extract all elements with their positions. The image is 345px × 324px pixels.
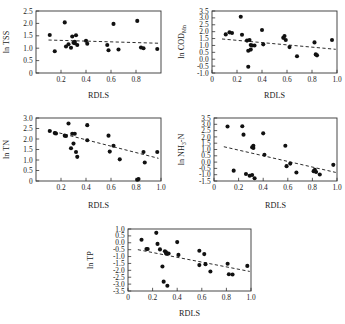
data-point: [330, 38, 334, 42]
data-point: [146, 247, 150, 251]
data-point: [66, 121, 70, 125]
trendline-tss: [49, 40, 159, 43]
x-tick-label: 0.4: [81, 183, 91, 192]
x-tick-label: 0.4: [81, 75, 91, 84]
data-point: [73, 132, 77, 136]
data-point: [141, 46, 145, 50]
y-tick-label: 3.5: [199, 7, 209, 16]
x-tick-label: 0.2: [56, 183, 66, 192]
plot-panel-cod: -1.0-0.50.00.51.01.52.02.53.03.500.20.40…: [174, 2, 345, 106]
data-point: [225, 125, 229, 129]
y-tick-label: 0: [29, 177, 33, 186]
data-point: [162, 280, 166, 284]
x-axis-label-tss: RDLS: [88, 91, 109, 100]
x-tick-label: 0.8: [131, 183, 141, 192]
x-tick-label: 1.0: [246, 293, 256, 302]
data-point: [143, 160, 147, 164]
data-point: [155, 150, 159, 154]
y-tick-label: 1.5: [23, 31, 33, 40]
data-point: [116, 47, 120, 51]
data-point: [176, 253, 180, 257]
x-axis-label-nh3n: RDLS: [265, 201, 286, 210]
x-axis-tp: 00.20.40.60.81.0: [126, 288, 256, 302]
data-point: [106, 48, 110, 52]
x-tick-label: 0.6: [282, 75, 292, 84]
x-axis-tss: 0.20.40.60.8: [56, 70, 141, 84]
data-point: [85, 42, 89, 46]
y-axis-nh3n: -1.5-1.0-0.50.00.51.01.52.02.53.03.5: [199, 114, 217, 186]
data-point: [105, 43, 109, 47]
y-axis-label-cod: ln CODMn: [177, 25, 187, 59]
x-tick-label: 0.2: [148, 293, 158, 302]
x-axis-tn: 0.20.40.60.81.0: [56, 178, 166, 192]
data-point: [285, 164, 289, 168]
data-point: [232, 169, 236, 173]
x-tick-label: 0.2: [232, 75, 242, 84]
plot-svg-tp: -3.5-3.0-2.5-2.0-1.5-1.0-0.50.00.51.000.…: [84, 220, 260, 324]
x-tick-label: 0: [212, 183, 216, 192]
x-tick-label: 1.0: [156, 183, 166, 192]
data-point: [241, 133, 245, 137]
plot-svg-cod: -1.0-0.50.00.51.01.52.02.53.03.500.20.40…: [174, 2, 345, 106]
data-point: [64, 134, 68, 138]
data-point: [74, 150, 78, 154]
x-tick-label: 0.4: [257, 75, 267, 84]
y-tick-label: 2.5: [23, 7, 33, 16]
plot-frame-tn: [36, 118, 161, 181]
data-point: [318, 172, 322, 176]
data-point: [197, 249, 201, 253]
data-point: [63, 20, 67, 24]
data-point: [249, 48, 253, 52]
data-point: [250, 173, 254, 177]
y-tick-label: 0.5: [23, 56, 33, 65]
y-axis-tss: 00.51.01.52.02.5: [23, 7, 39, 78]
x-tick-label: 0.6: [106, 183, 116, 192]
y-tick-label: 0: [29, 69, 33, 78]
y-axis-label-nh3n: ln NH3-N: [177, 134, 187, 166]
data-point: [294, 170, 298, 174]
data-point: [208, 269, 212, 273]
data-point: [202, 252, 206, 256]
data-point: [295, 54, 299, 58]
x-tick-label: 0.8: [308, 183, 318, 192]
data-point: [251, 146, 255, 150]
data-points-tss: [48, 19, 160, 53]
x-tick-label: 0.6: [283, 183, 293, 192]
data-point: [288, 162, 292, 166]
y-tick-label: 0.5: [23, 166, 33, 175]
y-tick-label: 1.5: [23, 145, 33, 154]
x-axis-nh3n: 00.20.40.60.81.0: [212, 178, 342, 192]
x-tick-label: 0.4: [259, 183, 269, 192]
data-point: [73, 40, 77, 44]
data-point: [230, 31, 234, 35]
data-point: [261, 131, 265, 135]
trendline-nh3n: [224, 147, 336, 173]
data-point: [287, 45, 291, 49]
x-tick-label: 1.0: [332, 75, 342, 84]
data-point: [315, 53, 319, 57]
x-tick-label: 0.6: [106, 75, 116, 84]
data-point: [284, 38, 288, 42]
data-point: [141, 150, 145, 154]
data-point: [331, 163, 335, 167]
data-point: [246, 65, 250, 69]
data-point: [118, 157, 122, 161]
x-axis-label-cod: RDLS: [264, 91, 285, 100]
plot-panel-tp: -3.5-3.0-2.5-2.0-1.5-1.0-0.50.00.51.000.…: [84, 220, 260, 324]
y-tick-label: 1.0: [23, 44, 33, 53]
data-point: [197, 263, 201, 267]
data-point: [108, 150, 112, 154]
data-point: [48, 33, 52, 37]
x-tick-label: 0.2: [56, 75, 66, 84]
data-point: [240, 124, 244, 128]
x-tick-label: 0.2: [234, 183, 244, 192]
data-point: [239, 15, 243, 19]
y-tick-label: 3.5: [201, 114, 211, 123]
data-point: [253, 176, 257, 180]
data-point: [165, 284, 169, 288]
y-tick-label: 2.0: [23, 135, 33, 144]
data-point: [167, 251, 171, 255]
y-tick-label: 2.0: [23, 19, 33, 28]
x-tick-label: 0.8: [222, 293, 232, 302]
data-point: [262, 153, 266, 157]
